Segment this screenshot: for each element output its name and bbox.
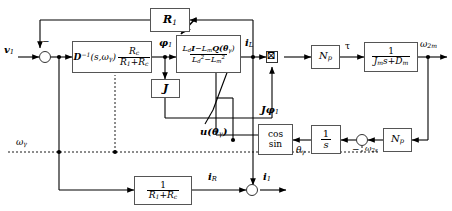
dot-omega2m-branch xyxy=(426,55,430,59)
label-Jphi1: Jφ1 xyxy=(261,105,279,116)
block-r1-feedback[interactable]: R1 xyxy=(150,8,190,32)
dot-left-branch xyxy=(57,150,61,154)
block-d-inverse[interactable]: D−1(s,ωγ) Rc R1+Rc xyxy=(72,41,152,73)
block-mechanical-tf[interactable]: 1 Jms+Dm xyxy=(364,42,418,72)
label-phi1: φ1 xyxy=(159,38,172,49)
resistance-fraction: 1 R1+Rc xyxy=(147,181,179,201)
mech-fraction: 1 Jms+Dm xyxy=(372,47,411,67)
label-iL: iL xyxy=(245,38,253,49)
dot-iL-branch xyxy=(251,55,255,59)
label-omega2m: ω2m xyxy=(420,40,437,49)
np-top-label: Np xyxy=(319,51,332,63)
np-bottom-label: Np xyxy=(391,134,404,146)
block-np-bottom[interactable]: Np xyxy=(383,128,412,152)
torque-multiplier-symbol: ⊠ xyxy=(267,50,276,62)
speed-sum-minus-sign: − xyxy=(352,144,360,154)
integrator-fraction: 1 s xyxy=(321,129,331,150)
input-sum-minus-sign: − xyxy=(42,36,50,46)
r1-label: R1 xyxy=(163,14,177,26)
dot-phi1-branch xyxy=(163,55,167,59)
block-cos-sin[interactable]: cos sin xyxy=(258,124,293,155)
label-tau: τ xyxy=(345,42,350,51)
block-diagram-canvas: − ⊠ − R1 D−1(s,ωγ) Rc R1+Rc LdI−LmQ(θγ) … xyxy=(0,0,452,211)
label-u-theta: u(θγ) xyxy=(200,127,227,138)
block-j-matrix[interactable]: J xyxy=(151,79,180,98)
label-omega2s: ω2s xyxy=(365,145,378,154)
dinv-fraction: Rc R1+Rc xyxy=(118,47,150,67)
block-resistance[interactable]: 1 R1+Rc xyxy=(134,176,192,205)
block-inductance-matrix[interactable]: LdI−LmQ(θγ) Ld2−Lm2 xyxy=(176,35,241,73)
label-v1: v1 xyxy=(4,45,14,56)
input-summing-junction[interactable] xyxy=(39,51,51,63)
block-np-top[interactable]: Np xyxy=(311,45,340,69)
dot-omega-gamma-branch xyxy=(113,150,117,154)
label-iR: iR xyxy=(208,172,217,183)
pointer-line-bottom2 xyxy=(205,110,213,124)
pointer-line-bottom xyxy=(213,70,228,110)
dot-input-branch xyxy=(57,55,61,59)
dot-cossin-branch xyxy=(231,138,235,142)
inductance-fraction: LdI−LmQ(θγ) Ld2−Lm2 xyxy=(180,44,236,64)
label-i1: i1 xyxy=(263,172,271,183)
sin-label: sin xyxy=(269,140,282,149)
j-label: J xyxy=(163,83,168,95)
label-omega-gamma: ωγ xyxy=(16,138,27,147)
wiring-layer xyxy=(0,0,452,211)
label-theta-gamma: θγ xyxy=(296,146,305,155)
current-summing-junction[interactable] xyxy=(246,184,258,196)
block-integrator[interactable]: 1 s xyxy=(311,125,341,154)
dinv-expression: D−1(s,ωγ) Rc R1+Rc xyxy=(74,47,151,67)
